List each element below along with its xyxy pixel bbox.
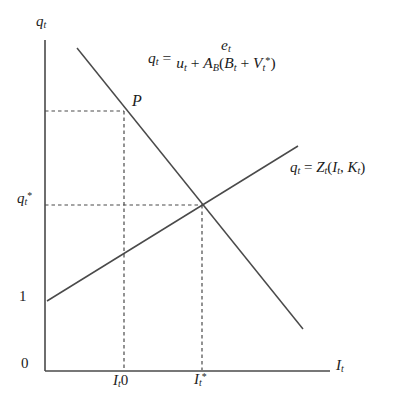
math-fragment: B bbox=[213, 62, 219, 73]
math-fragment: + bbox=[187, 54, 204, 71]
math-fragment: t bbox=[358, 165, 361, 176]
supply-curve-label: qt = Zt(It, Kt) bbox=[290, 160, 365, 175]
math-fragment: 0 bbox=[121, 372, 129, 388]
supply-line bbox=[47, 146, 298, 301]
math-fragment: t bbox=[341, 363, 344, 374]
math-fragment: t bbox=[156, 56, 159, 67]
math-fragment: = bbox=[159, 49, 172, 66]
equation-denominator: ut + AB(Bt + Vt*) bbox=[176, 55, 275, 71]
math-fragment: q bbox=[148, 49, 156, 66]
y-axis-label: qt bbox=[36, 14, 46, 29]
y-tick-qstar-label: qt* bbox=[17, 191, 32, 206]
math-fragment: Z bbox=[316, 159, 324, 175]
equation-fraction: et ut + AB(Bt + Vt*) bbox=[176, 37, 275, 72]
math-fragment: * bbox=[27, 190, 32, 201]
equation-numerator: et bbox=[221, 37, 231, 53]
math-fragment: q bbox=[290, 159, 298, 175]
math-fragment: t bbox=[325, 165, 328, 176]
math-fragment: K bbox=[348, 159, 358, 175]
math-fragment: = bbox=[300, 159, 316, 175]
math-fragment: , bbox=[340, 159, 348, 175]
demand-line bbox=[77, 48, 303, 329]
math-fragment: t bbox=[337, 165, 340, 176]
math-fragment: * bbox=[265, 55, 270, 66]
math-fragment: t bbox=[234, 62, 237, 73]
y-tick-one-label: 1 bbox=[19, 289, 27, 304]
math-fragment: + bbox=[237, 54, 254, 71]
math-fragment: q bbox=[17, 190, 25, 206]
demand-curve-equation: qt = et ut + AB(Bt + Vt*) bbox=[148, 37, 276, 72]
math-fragment: t bbox=[44, 19, 47, 30]
math-fragment: e bbox=[221, 36, 228, 53]
point-p-label: P bbox=[132, 93, 142, 109]
origin-tick-label: 0 bbox=[21, 356, 29, 371]
x-axis-label: It bbox=[336, 358, 344, 373]
math-fragment: u bbox=[176, 54, 184, 71]
equation-lhs: qt = bbox=[148, 50, 171, 66]
math-fragment: t bbox=[184, 62, 187, 73]
math-fragment: ) bbox=[360, 159, 365, 175]
math-fragment: q bbox=[36, 13, 44, 29]
math-fragment: t bbox=[118, 378, 121, 389]
math-fragment: B bbox=[224, 54, 233, 71]
x-tick-istar-label: It* bbox=[194, 372, 207, 387]
math-fragment: * bbox=[202, 371, 207, 382]
x-tick-i0-label: It0 bbox=[113, 373, 128, 388]
economics-supply-demand-figure: qt It 0 1 qt* It0 It* P qt = et ut + AB(… bbox=[0, 0, 396, 403]
math-fragment: t bbox=[228, 43, 231, 54]
math-fragment: A bbox=[203, 54, 212, 71]
math-fragment: t bbox=[298, 165, 301, 176]
math-fragment: ) bbox=[270, 54, 275, 71]
